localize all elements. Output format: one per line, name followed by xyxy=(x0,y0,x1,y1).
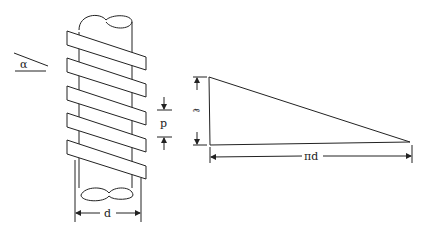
circumference-dimension: πd xyxy=(210,145,412,163)
developed-triangle xyxy=(209,77,410,145)
diameter-label: d xyxy=(104,207,111,220)
pitch-label: p xyxy=(160,117,167,130)
lead-dimension: ℓ xyxy=(191,77,207,145)
angle-label: α xyxy=(20,58,28,71)
circumference-label: πd xyxy=(304,150,318,163)
angle-indicator: α xyxy=(14,53,48,71)
diagram-canvas: α p d ℓ xyxy=(0,0,428,234)
lead-label: ℓ xyxy=(191,108,202,113)
pitch-dimension: p xyxy=(157,97,172,150)
